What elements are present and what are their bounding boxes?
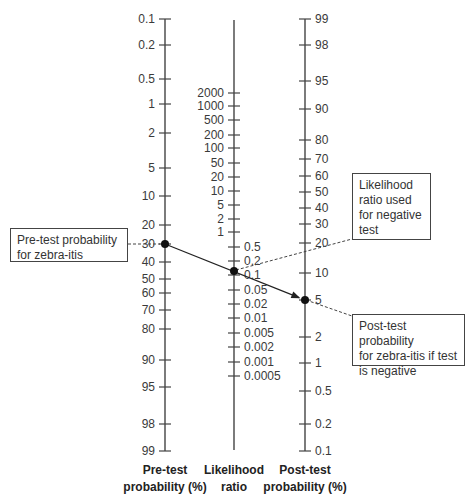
tick-label: 0.1 (315, 444, 332, 458)
axis-pre-test: 0.10.20.5125102030405060708090959899 (138, 12, 171, 458)
tick-label: 80 (142, 322, 156, 336)
axes-layer: 0.10.20.51251020304050607080909598992000… (138, 12, 332, 458)
tick-label: 40 (315, 201, 329, 215)
post-test-point (301, 296, 309, 304)
axis-title: Pre-test (143, 463, 188, 477)
tick-label: 10 (315, 266, 329, 280)
tick-label: 98 (315, 38, 329, 52)
tick-label: 99 (142, 444, 156, 458)
annotation-line: is negative (359, 364, 458, 379)
annotation-line: Pre-test probability (17, 233, 121, 248)
tick-label: 2 (148, 126, 155, 140)
tick-label: 2000 (197, 86, 224, 100)
tick-label: 90 (142, 353, 156, 367)
tick-label: 20 (142, 218, 156, 232)
axis-title: probability (%) (263, 480, 346, 494)
tick-label: 80 (315, 133, 329, 147)
tick-label: 100 (204, 141, 224, 155)
tick-label: 0.001 (244, 355, 274, 369)
tick-label: 2 (315, 330, 322, 344)
annotation-line: for zebra-itis if test (359, 349, 458, 364)
tick-label: 1 (315, 356, 322, 370)
tick-label: 98 (142, 417, 156, 431)
pre-test-point (161, 240, 169, 248)
tick-label: 10 (142, 189, 156, 203)
annotation-line: for negative (359, 208, 424, 223)
tick-label: 2 (217, 212, 224, 226)
annotation-line: ratio used (359, 193, 424, 208)
tick-label: 1 (148, 97, 155, 111)
tick-label: 1 (217, 225, 224, 239)
tick-label: 0.5 (315, 384, 332, 398)
annotation-line: test (359, 223, 424, 238)
tick-label: 50 (142, 272, 156, 286)
tick-label: 0.2 (138, 38, 155, 52)
tick-label: 50 (315, 185, 329, 199)
pre-test-annotation: Pre-test probability for zebra-itis (10, 228, 128, 262)
tick-label: 0.02 (244, 297, 268, 311)
tick-label: 0.0005 (244, 369, 281, 383)
axis-likelihood-ratio: 200010005002001005020105210.50.20.10.050… (197, 20, 281, 450)
tick-label: 0.2 (315, 417, 332, 431)
tick-label: 0.005 (244, 326, 274, 340)
axis-title: Post-test (279, 463, 330, 477)
axis-title: Likelihood (204, 463, 264, 477)
annotation-line: for zebra-itis (17, 248, 121, 263)
tick-label: 90 (315, 102, 329, 116)
annotation-line: Likelihood (359, 178, 424, 193)
tick-label: 5 (217, 198, 224, 212)
lr-annotation: Likelihood ratio used for negative test (352, 173, 431, 240)
axis-titles: Pre-testprobability (%)LikelihoodratioPo… (123, 463, 346, 494)
tick-label: 500 (204, 113, 224, 127)
axis-title: ratio (221, 480, 247, 494)
tick-label: 0.05 (244, 283, 268, 297)
tick-label: 20 (211, 170, 225, 184)
example-line (161, 240, 309, 304)
tick-label: 0.002 (244, 340, 274, 354)
connector-post-test (306, 300, 352, 316)
tick-label: 0.1 (244, 268, 261, 282)
tick-label: 70 (142, 303, 156, 317)
axis-post-test: 9998959080706050403020105210.50.20.1 (299, 12, 332, 458)
tick-label: 200 (204, 128, 224, 142)
tick-label: 95 (142, 380, 156, 394)
tick-label: 95 (315, 74, 329, 88)
tick-label: 10 (211, 184, 225, 198)
tick-label: 1000 (197, 99, 224, 113)
axis-title: probability (%) (123, 480, 206, 494)
tick-label: 40 (142, 255, 156, 269)
tick-label: 0.5 (138, 72, 155, 86)
tick-label: 0.5 (244, 240, 261, 254)
arrowhead-icon (291, 292, 301, 299)
lr-point (230, 267, 238, 275)
tick-label: 20 (315, 236, 329, 250)
tick-label: 60 (315, 169, 329, 183)
tick-label: 99 (315, 12, 329, 26)
tick-label: 60 (142, 286, 156, 300)
tick-label: 0.01 (244, 311, 268, 325)
annotation-line: Post-test probability (359, 319, 458, 349)
tick-label: 50 (211, 156, 225, 170)
tick-label: 0.1 (138, 12, 155, 26)
tick-label: 30 (315, 217, 329, 231)
tick-label: 5 (148, 161, 155, 175)
tick-label: 70 (315, 152, 329, 166)
post-test-annotation: Post-test probability for zebra-itis if … (352, 314, 465, 366)
